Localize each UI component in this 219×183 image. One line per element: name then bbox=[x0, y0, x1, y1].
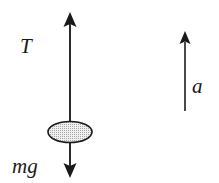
free-body-diagram: T mg a bbox=[0, 0, 219, 183]
acceleration-arrow bbox=[180, 31, 191, 111]
mass-body bbox=[48, 122, 92, 143]
tension-arrow bbox=[64, 12, 77, 133]
mass-ellipse bbox=[48, 122, 92, 143]
tension-label: T bbox=[20, 36, 32, 57]
weight-label: mg bbox=[12, 156, 38, 177]
acceleration-label: a bbox=[192, 76, 203, 97]
